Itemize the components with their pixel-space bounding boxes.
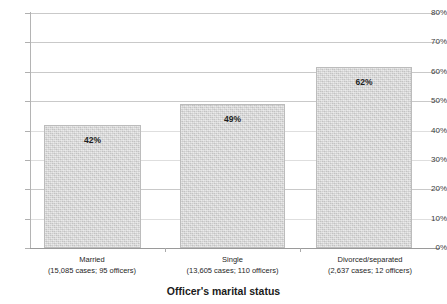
y-tick-mark-10 <box>25 219 30 220</box>
y-axis-line <box>30 12 31 249</box>
bar-chart: 80% 70% 60% 50% 40% 30% 20% 10% 0% 42% 4… <box>0 0 447 304</box>
x-category-name-single: Single <box>167 255 298 266</box>
gridline-70 <box>30 42 440 43</box>
x-category-label-divorced-separated: Divorced/separated (2,637 cases; 12 offi… <box>300 255 440 276</box>
y-tick-label-70: 70% <box>421 38 447 46</box>
y-tick-label-0: 0% <box>421 244 447 252</box>
y-tick-label-10: 10% <box>421 215 447 223</box>
gridline-80 <box>30 13 440 14</box>
y-tick-mark-0 <box>25 248 30 249</box>
x-axis-title: Officer's marital status <box>0 285 447 297</box>
x-category-label-single: Single (13,605 cases; 110 officers) <box>167 255 298 276</box>
x-tick-mark-1 <box>165 248 166 252</box>
y-tick-label-30: 30% <box>421 156 447 164</box>
bar-single[interactable]: 49% <box>180 104 285 248</box>
bar-value-married: 42% <box>45 136 140 145</box>
y-tick-label-60: 60% <box>421 68 447 76</box>
x-category-name-married: Married <box>27 255 157 266</box>
y-tick-mark-70 <box>25 42 30 43</box>
x-tick-mark-2 <box>300 248 301 252</box>
bar-value-single: 49% <box>181 115 284 124</box>
x-category-sublabel-divorced-separated: (2,637 cases; 12 officers) <box>300 266 440 277</box>
y-tick-mark-50 <box>25 101 30 102</box>
x-category-label-married: Married (15,085 cases; 95 officers) <box>27 255 157 276</box>
y-tick-label-80: 80% <box>421 9 447 17</box>
x-category-sublabel-single: (13,605 cases; 110 officers) <box>167 266 298 277</box>
x-axis-line <box>30 248 440 249</box>
y-tick-mark-40 <box>25 131 30 132</box>
y-tick-mark-30 <box>25 160 30 161</box>
y-tick-mark-60 <box>25 72 30 73</box>
bar-divorced-separated[interactable]: 62% <box>316 67 412 248</box>
y-tick-mark-20 <box>25 189 30 190</box>
y-tick-label-50: 50% <box>421 97 447 105</box>
bar-married[interactable]: 42% <box>44 125 141 248</box>
bar-value-divorced-separated: 62% <box>317 78 411 87</box>
x-category-sublabel-married: (15,085 cases; 95 officers) <box>27 266 157 277</box>
x-category-name-divorced-separated: Divorced/separated <box>300 255 440 266</box>
y-tick-label-40: 40% <box>421 127 447 135</box>
y-tick-label-20: 20% <box>421 185 447 193</box>
y-tick-mark-80 <box>25 13 30 14</box>
